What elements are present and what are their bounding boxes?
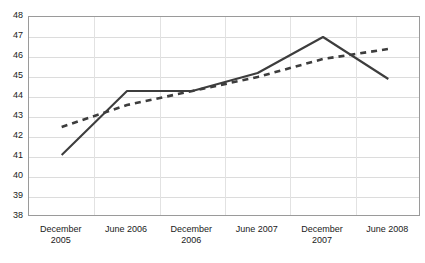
x-axis-tick-line: December (28, 224, 93, 235)
series-layer (29, 17, 421, 217)
x-axis-tick-label: December2005 (28, 220, 93, 260)
x-axis-tick-label: December2007 (289, 220, 354, 260)
y-axis-tick-label: 46 (1, 51, 23, 60)
y-axis-tick-label: 48 (1, 11, 23, 20)
x-axis-tick-label: December2006 (159, 220, 224, 260)
series-line-dashed-series (62, 49, 389, 127)
y-axis-tick-label: 42 (1, 131, 23, 140)
y-axis-tick-label: 43 (1, 111, 23, 120)
x-axis-tick-label: June 2007 (224, 220, 289, 260)
y-axis-tick-label: 40 (1, 171, 23, 180)
x-axis-tick-line: 2005 (28, 235, 93, 246)
plot-area (28, 16, 420, 216)
x-axis-tick-line: June 2006 (93, 224, 158, 235)
y-axis-tick-label: 47 (1, 31, 23, 40)
y-axis-tick-label: 44 (1, 91, 23, 100)
y-axis-tick-label: 45 (1, 71, 23, 80)
series-line-solid-series (62, 37, 389, 155)
x-axis-tick-line: 2006 (159, 235, 224, 246)
line-chart: 4847464544434241403938 December2005June … (0, 0, 425, 263)
x-axis-tick-line: 2007 (289, 235, 354, 246)
x-axis-tick-line: December (159, 224, 224, 235)
x-axis-tick-line: December (289, 224, 354, 235)
x-axis: December2005June 2006December2006June 20… (28, 220, 420, 260)
y-axis-tick-label: 39 (1, 191, 23, 200)
x-axis-tick-line: June 2008 (355, 224, 420, 235)
x-axis-tick-label: June 2008 (355, 220, 420, 260)
y-axis-tick-label: 41 (1, 151, 23, 160)
x-axis-tick-line: June 2007 (224, 224, 289, 235)
y-axis-tick-label: 38 (1, 211, 23, 220)
x-axis-tick-label: June 2006 (93, 220, 158, 260)
